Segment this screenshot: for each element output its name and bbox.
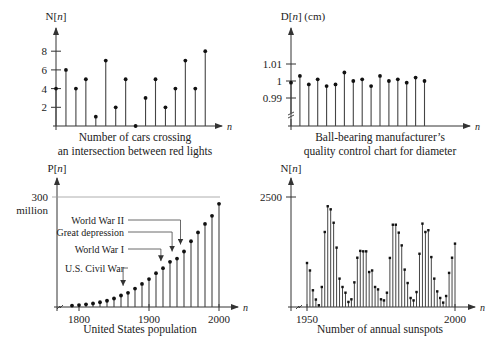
population-dot	[182, 250, 186, 254]
sunspots-dot	[451, 257, 453, 259]
sunspots-dot	[309, 269, 311, 271]
y-axis-label: N[n]	[46, 10, 67, 22]
sunspots-dot	[312, 289, 314, 291]
population-dot	[161, 266, 165, 270]
population-dot	[77, 303, 81, 307]
population-dot	[196, 231, 200, 235]
x-axis-label: n	[480, 302, 485, 313]
sunspots-dot	[377, 288, 379, 290]
cars-dot	[104, 59, 108, 63]
sunspots-dot	[398, 231, 400, 233]
population-dot	[112, 297, 116, 301]
chart-cars: nN[n]2468	[42, 10, 233, 132]
y-tick-label: 0.99	[263, 92, 283, 104]
y-tick-unit: million	[16, 204, 48, 216]
caption-line: quality control chart for diameter	[285, 144, 475, 158]
sunspots-dot	[430, 256, 432, 258]
x-axis-label: n	[243, 302, 248, 313]
sunspots-dot	[368, 271, 370, 273]
cars-dot	[193, 87, 197, 91]
sunspots-dot	[439, 297, 441, 299]
caption-sunspots: Number of annual sunspots	[285, 322, 475, 336]
sunspots-dot	[389, 257, 391, 259]
population-dot	[210, 214, 214, 218]
bearing-dot	[396, 77, 400, 81]
sunspots-dot	[412, 299, 414, 301]
sunspots-dot	[371, 269, 373, 271]
sunspots-dot	[386, 292, 388, 294]
sunspots-dot	[359, 250, 361, 252]
sunspots-dot	[327, 205, 329, 207]
population-dot	[91, 302, 95, 306]
sunspots-dot	[347, 301, 349, 303]
bearing-dot	[351, 79, 355, 83]
sunspots-dot	[403, 268, 405, 270]
cars-dot	[174, 87, 178, 91]
chart-us-population: nP[n]300million180019002000World War IIG…	[16, 162, 248, 325]
annotation-arrow	[128, 249, 161, 261]
sunspots-dot	[409, 297, 411, 299]
bearing-dot	[378, 74, 382, 78]
sunspots-dot	[383, 299, 385, 301]
sunspots-dot	[350, 298, 352, 300]
sunspots-dot	[392, 224, 394, 226]
sunspots-dot	[380, 298, 382, 300]
population-dot	[70, 304, 74, 308]
chart-ball-bearing: nD[n] (cm)0.9911.01	[263, 10, 480, 132]
cars-dot	[94, 115, 98, 119]
sunspots-dot	[332, 222, 334, 224]
caption-bearing: Ball-bearing manufacturer’s quality cont…	[285, 130, 475, 158]
sunspots-dot	[427, 229, 429, 231]
sunspots-dot	[365, 250, 367, 252]
sunspots-dot	[406, 282, 408, 284]
annotation-label: Great depression	[57, 227, 124, 238]
bearing-dot	[316, 77, 320, 81]
sunspots-dot	[395, 224, 397, 226]
sunspots-dot	[442, 301, 444, 303]
sunspots-dot	[306, 262, 308, 264]
annotation-label: World War I	[75, 244, 124, 255]
cars-dot	[164, 105, 168, 109]
annotation-arrow	[128, 232, 172, 252]
cars-dot	[154, 77, 158, 81]
cars-dot	[114, 105, 118, 109]
sunspots-dot	[418, 253, 420, 255]
caption-line: Number of cars crossing	[40, 130, 230, 144]
sunspots-dot	[421, 222, 423, 224]
y-axis-label: N[n]	[281, 162, 302, 174]
cars-dot	[74, 87, 78, 91]
cars-dot	[54, 87, 58, 91]
caption-line: Number of annual sunspots	[285, 322, 475, 336]
population-dot	[203, 222, 207, 226]
population-dot	[133, 287, 137, 291]
sunspots-dot	[448, 272, 450, 274]
population-dot	[154, 271, 158, 275]
y-tick-label: 1.01	[263, 58, 282, 70]
sunspots-dot	[436, 290, 438, 292]
caption-line: Ball-bearing manufacturer’s	[285, 130, 475, 144]
population-dot	[98, 300, 102, 304]
cars-dot	[203, 49, 207, 53]
bearing-dot	[307, 83, 311, 87]
caption-line: United States population	[45, 322, 235, 336]
bearing-dot	[334, 83, 338, 87]
y-axis-label: D[n] (cm)	[281, 10, 326, 23]
bearing-dot	[343, 71, 347, 75]
annotation-label: U.S. Civil War	[65, 263, 125, 274]
y-tick-label: 300	[32, 191, 49, 203]
population-dot	[168, 260, 172, 264]
caption-cars: Number of cars crossing an intersection …	[40, 130, 230, 158]
sunspots-dot	[415, 291, 417, 293]
y-tick-label: 4	[42, 83, 48, 95]
chart-sunspots: nN[n]250019502000	[260, 162, 485, 325]
sunspots-dot	[344, 292, 346, 294]
bearing-dot	[325, 84, 329, 88]
bearing-dot	[405, 81, 409, 85]
sunspots-dot	[321, 286, 323, 288]
sunspots-dot	[356, 257, 358, 259]
sunspots-dot	[424, 231, 426, 233]
sunspots-dot	[362, 250, 364, 252]
sunspots-dot	[433, 277, 435, 279]
sunspots-dot	[318, 304, 320, 306]
population-dot	[217, 202, 221, 206]
